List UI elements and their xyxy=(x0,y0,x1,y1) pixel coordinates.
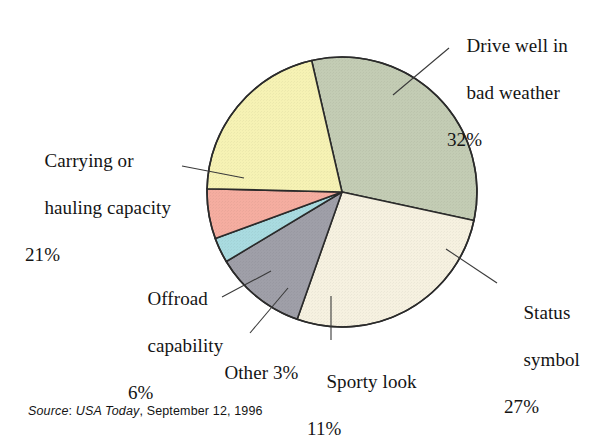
source-separator: : xyxy=(69,404,76,418)
pie-chart-figure: Drive well in bad weather 32% Carrying o… xyxy=(0,0,590,435)
pie-label-drive-well-in-bad-weather: Drive well in bad weather 32% xyxy=(447,11,568,198)
pie-label-offroad-line1: Offroad xyxy=(147,288,208,309)
source-caption: Source: USA Today, September 12, 1996 xyxy=(28,404,263,418)
source-prefix: Source xyxy=(28,404,69,418)
pie-label-carrying-line2: hauling capacity xyxy=(44,197,171,218)
source-date: , September 12, 1996 xyxy=(139,404,262,418)
pie-label-drive-line1: Drive well in xyxy=(466,35,568,56)
pie-label-status-line2: symbol xyxy=(523,349,580,370)
pie-label-sporty-line1: Sporty look xyxy=(326,371,416,392)
pie-label-carrying-line1: Carrying or xyxy=(44,150,133,171)
pie-label-sporty-percent: 11% xyxy=(307,417,417,435)
pie-texture-overlay xyxy=(207,57,477,327)
pie-label-drive-percent: 32% xyxy=(447,128,568,151)
pie-label-other-text: Other 3% xyxy=(224,362,298,383)
pie-label-carrying-percent: 21% xyxy=(25,243,171,266)
pie-label-other: Other 3% xyxy=(205,338,299,408)
source-publication: USA Today xyxy=(76,404,140,418)
pie-label-status-percent: 27% xyxy=(504,395,580,418)
pie-label-status-symbol: Status symbol 27% xyxy=(504,278,580,435)
pie-label-sporty-look: Sporty look 11% xyxy=(307,347,417,435)
pie-label-status-line1: Status xyxy=(523,302,570,323)
pie-label-drive-line2: bad weather xyxy=(466,82,559,103)
